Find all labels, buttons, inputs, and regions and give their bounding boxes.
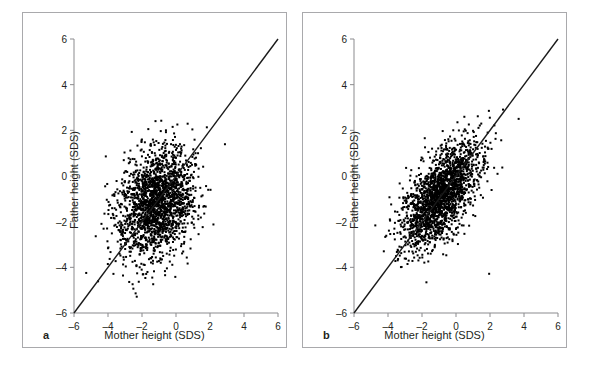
data-point <box>133 187 135 189</box>
data-point <box>403 225 405 227</box>
data-point <box>415 222 417 224</box>
y-tick-label: 4 <box>341 80 347 91</box>
data-point <box>141 193 143 195</box>
data-point <box>433 208 435 210</box>
data-point <box>457 144 459 146</box>
data-point <box>182 206 184 208</box>
data-point <box>418 174 420 176</box>
data-point <box>116 199 118 201</box>
data-point <box>199 187 201 189</box>
data-point <box>430 176 432 178</box>
data-point <box>389 220 391 222</box>
data-point <box>435 164 437 166</box>
data-point <box>172 212 174 214</box>
data-point <box>406 206 408 208</box>
data-point <box>458 196 460 198</box>
data-point <box>440 168 442 170</box>
data-point <box>184 174 186 176</box>
data-point <box>488 273 490 275</box>
data-point <box>143 197 145 199</box>
data-point <box>179 232 181 234</box>
y-tick-label: 6 <box>341 34 347 45</box>
data-point <box>407 208 409 210</box>
data-point <box>192 185 194 187</box>
data-point <box>427 187 429 189</box>
data-point <box>461 161 463 163</box>
data-point <box>111 207 113 209</box>
data-point <box>149 204 151 206</box>
data-point <box>435 154 437 156</box>
data-point <box>146 271 148 273</box>
data-point <box>468 191 470 193</box>
data-point <box>449 218 451 220</box>
data-point <box>143 167 145 169</box>
data-point <box>410 187 412 189</box>
data-point <box>401 222 403 224</box>
data-point <box>133 193 135 195</box>
data-point <box>140 238 142 240</box>
data-point <box>435 211 437 213</box>
data-point <box>184 210 186 212</box>
data-point <box>198 206 200 208</box>
data-point <box>410 169 412 171</box>
data-point <box>174 276 176 278</box>
y-tick-label: 2 <box>61 125 67 136</box>
data-point <box>146 200 148 202</box>
data-point <box>442 170 444 172</box>
data-point <box>440 145 442 147</box>
data-point <box>162 187 164 189</box>
data-point <box>122 229 124 231</box>
data-point <box>166 175 168 177</box>
data-point <box>179 214 181 216</box>
data-point <box>170 175 172 177</box>
data-point <box>150 171 152 173</box>
data-point <box>184 169 186 171</box>
data-point <box>436 170 438 172</box>
data-point <box>163 157 165 159</box>
data-point <box>132 158 134 160</box>
data-point <box>173 209 175 211</box>
data-point <box>433 171 435 173</box>
data-point <box>174 136 176 138</box>
data-point <box>116 188 118 190</box>
data-point <box>484 155 486 157</box>
data-point <box>408 196 410 198</box>
data-point <box>144 237 146 239</box>
data-point <box>424 242 426 244</box>
data-point <box>484 151 486 153</box>
data-point <box>415 224 417 226</box>
data-point <box>164 180 166 182</box>
data-point <box>150 228 152 230</box>
data-point <box>160 130 162 132</box>
data-point <box>125 195 127 197</box>
data-point <box>179 191 181 193</box>
data-point <box>153 230 155 232</box>
data-point <box>419 211 421 213</box>
data-point <box>452 186 454 188</box>
data-point <box>425 219 427 221</box>
data-point <box>469 179 471 181</box>
data-point <box>427 253 429 255</box>
data-point <box>427 201 429 203</box>
data-point <box>160 239 162 241</box>
data-point <box>164 184 166 186</box>
data-point <box>145 157 147 159</box>
data-point <box>461 224 463 226</box>
data-point <box>171 173 173 175</box>
data-point <box>144 213 146 215</box>
data-point <box>429 206 431 208</box>
data-point <box>173 132 175 134</box>
data-point <box>168 152 170 154</box>
data-point <box>427 198 429 200</box>
data-point <box>164 201 166 203</box>
data-point <box>166 200 168 202</box>
data-point <box>153 236 155 238</box>
data-point <box>172 151 174 153</box>
data-point <box>114 224 116 226</box>
data-point <box>450 215 452 217</box>
data-point <box>442 178 444 180</box>
data-point <box>158 213 160 215</box>
data-point <box>460 153 462 155</box>
data-point <box>128 281 130 283</box>
data-point <box>140 250 142 252</box>
